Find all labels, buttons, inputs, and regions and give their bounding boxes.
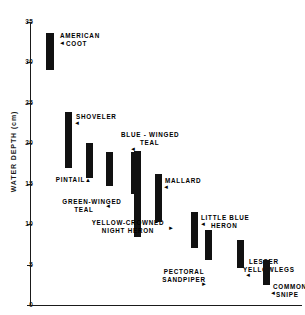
pointer-lesser-yellowlegs-icon: ◄ bbox=[245, 272, 251, 279]
y-tick-label-5: 5 bbox=[15, 262, 33, 268]
pointer-shoveler-icon: ◄ bbox=[74, 120, 80, 127]
pointer-common-snipe-icon: ◄ bbox=[270, 290, 276, 297]
label-american-coot-line2: COOT bbox=[66, 40, 87, 47]
pointer-pintail-icon: ▲ bbox=[85, 177, 91, 184]
bar-mallard bbox=[155, 174, 162, 222]
label-little-blue-heron-line2: HERON bbox=[211, 222, 238, 229]
y-tick-label-25: 25 bbox=[15, 100, 33, 106]
label-mallard: MALLARD bbox=[165, 177, 201, 184]
label-blue-winged-teal-line2: TEAL bbox=[140, 139, 159, 146]
pointer-mallard-icon: ◄ bbox=[163, 184, 169, 191]
label-blue-winged-teal-line1: BLUE - WINGED bbox=[121, 131, 179, 138]
bar-common-snipe bbox=[263, 260, 270, 285]
pointer-little-blue-heron-icon: ◄ bbox=[200, 221, 206, 228]
pointer-green-winged-teal-icon: ◄ bbox=[105, 203, 111, 210]
label-green-winged-teal-line2: TEAL bbox=[62, 206, 106, 213]
label-common-snipe-line2: SNIPE bbox=[276, 291, 299, 298]
bar-pintail bbox=[86, 143, 93, 178]
bar-pectoral-sandpiper bbox=[205, 230, 212, 260]
bar-little-blue-heron bbox=[191, 212, 198, 248]
y-tick-label-35: 35 bbox=[15, 19, 33, 25]
y-tick-label-15: 15 bbox=[15, 181, 33, 187]
bar-shoveler bbox=[65, 112, 72, 168]
label-yellow-crowned-line2: NIGHT HERON bbox=[88, 227, 168, 234]
bar-american-coot bbox=[46, 33, 54, 70]
label-common-snipe-line1: COMMON bbox=[273, 283, 305, 290]
bar-lesser-yellowlegs bbox=[237, 240, 244, 268]
y-tick-label-0: 0 bbox=[15, 302, 33, 308]
label-pectoral-sandpiper-line1: PECTORAL bbox=[160, 268, 208, 275]
y-tick-label-20: 20 bbox=[15, 140, 33, 146]
label-little-blue-heron-line1: LITTLE BLUE bbox=[201, 214, 249, 221]
label-green-winged-teal-line1: GREEN-WINGED bbox=[62, 198, 122, 205]
y-tick-label-10: 10 bbox=[15, 221, 33, 227]
label-shoveler: SHOVELER bbox=[76, 113, 117, 120]
y-tick-label-30: 30 bbox=[15, 59, 33, 65]
pointer-yellow-crowned-icon: ► bbox=[168, 225, 174, 232]
pointer-pectoral-sandpiper-icon: ► bbox=[201, 281, 207, 288]
label-pintail: PINTAIL bbox=[53, 176, 85, 183]
bar-green-winged-teal bbox=[106, 152, 113, 186]
pointer-american-coot-icon: ◄ bbox=[59, 40, 65, 47]
x-axis-line bbox=[30, 305, 302, 306]
label-american-coot-line1: AMERICAN bbox=[60, 32, 100, 39]
water-depth-chart: WATER DEPTH (cm) 35 30 25 20 15 10 5 0 A… bbox=[0, 0, 305, 315]
